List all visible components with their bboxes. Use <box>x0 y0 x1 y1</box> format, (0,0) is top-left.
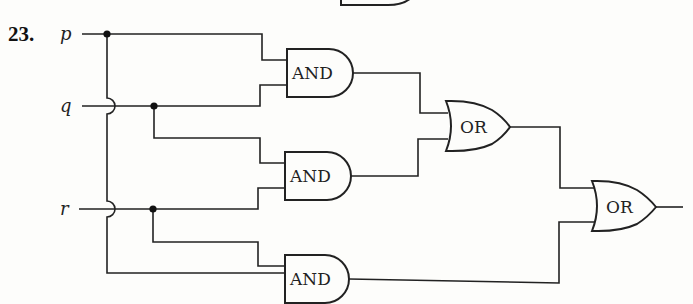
problem-number: 23. <box>8 22 34 46</box>
previous-problem-gate-fragment <box>341 0 411 5</box>
and-gate-3-label: AND <box>289 269 331 289</box>
junction-dot-q <box>150 102 157 109</box>
or-gate-2-label: OR <box>606 197 634 217</box>
wire-q-to-and2 <box>154 106 285 163</box>
logic-circuit-diagram: 23. p q r AND AND AND OR O <box>0 0 693 304</box>
and-gate-1: AND <box>287 49 353 97</box>
junction-dot-r <box>149 205 156 212</box>
wire-p-to-and1 <box>82 34 287 60</box>
and-gate-2-label: AND <box>289 166 331 186</box>
and-gate-1-label: AND <box>291 63 333 83</box>
wire-r-to-and3 <box>153 209 285 266</box>
wire-and3-to-or2 <box>349 222 594 283</box>
or-gate-1-label: OR <box>460 117 488 137</box>
wire-and2-to-or1 <box>351 139 448 176</box>
or-gate-1: OR <box>446 101 510 151</box>
input-label-q: q <box>60 95 72 116</box>
input-label-p: p <box>60 23 72 44</box>
and-gate-2: AND <box>285 152 351 200</box>
wire-r-to-and2 <box>79 188 285 209</box>
and-gate-3: AND <box>285 255 349 303</box>
or-gate-2: OR <box>592 181 656 231</box>
wire-or1-to-or2 <box>510 127 596 188</box>
junction-dot-p <box>103 30 110 37</box>
wire-and1-to-or1 <box>353 73 448 113</box>
input-label-r: r <box>60 198 70 219</box>
wire-p-bus-to-and3 <box>107 34 285 273</box>
wire-q-to-and1 <box>82 85 287 106</box>
